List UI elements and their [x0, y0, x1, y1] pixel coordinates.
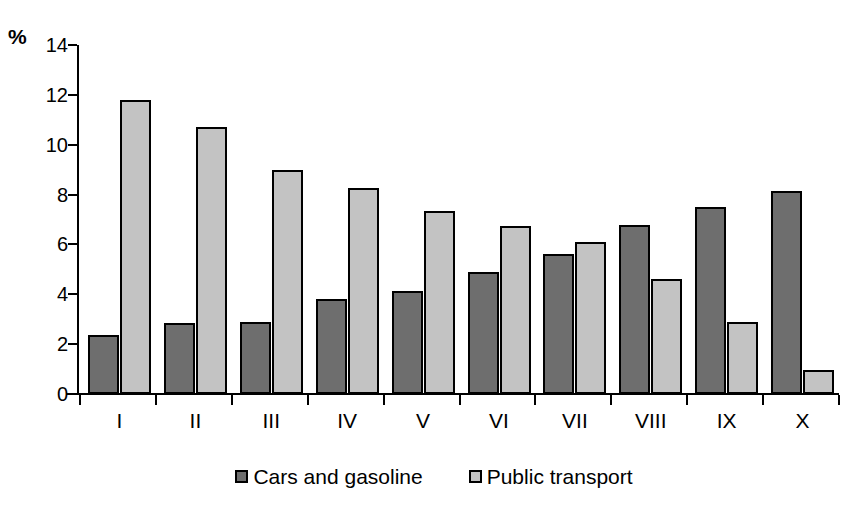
bar — [771, 191, 802, 394]
bar — [392, 291, 423, 394]
bar-group — [762, 45, 838, 394]
legend-swatch-icon — [235, 470, 248, 483]
bar — [120, 100, 151, 394]
y-axis-tick-label: 8 — [26, 185, 68, 205]
x-axis-tick-mark — [155, 395, 157, 405]
x-axis-tick-mark — [686, 395, 688, 405]
x-axis-category-label: IX — [695, 410, 758, 431]
bar — [619, 225, 650, 395]
y-axis-tick-mark — [68, 293, 77, 295]
y-axis-tick-labels: 02468101214 — [18, 45, 68, 394]
bar — [803, 370, 834, 394]
x-axis-tick-mark — [838, 395, 840, 405]
x-axis-category-label: III — [240, 410, 303, 431]
y-axis-unit-label: % — [8, 26, 27, 47]
y-axis-tick-label: 10 — [26, 135, 68, 155]
bar — [500, 226, 531, 394]
bar-chart: % 02468101214 IIIIIIIVVVIVIIVIIIIXX Cars… — [0, 0, 868, 506]
x-axis-category-label: X — [771, 410, 834, 431]
bar — [424, 211, 455, 394]
x-axis-tick-mark — [79, 395, 81, 405]
bar — [575, 242, 606, 394]
bar-group — [383, 45, 459, 394]
bar — [695, 207, 726, 394]
x-axis-tick-mark — [534, 395, 536, 405]
bar — [543, 254, 574, 394]
y-axis-tick-label: 2 — [26, 334, 68, 354]
y-axis-tick-mark — [68, 94, 77, 96]
bar-group — [459, 45, 535, 394]
bar-group — [610, 45, 686, 394]
bar — [240, 322, 271, 394]
x-axis-category-label: V — [392, 410, 455, 431]
bar — [348, 188, 379, 394]
bar — [196, 127, 227, 394]
y-axis-tick-marks — [68, 45, 77, 394]
legend-item: Public transport — [469, 466, 633, 487]
y-axis-tick-label: 4 — [26, 284, 68, 304]
x-axis-tick-mark — [383, 395, 385, 405]
y-axis-tick-mark — [68, 44, 77, 46]
bar — [727, 322, 758, 394]
legend-swatch-icon — [469, 470, 482, 483]
bar-group — [155, 45, 231, 394]
bar-group — [686, 45, 762, 394]
y-axis-tick-label: 14 — [26, 35, 68, 55]
y-axis-tick-label: 12 — [26, 85, 68, 105]
x-axis-category-label: II — [164, 410, 227, 431]
y-axis-tick-mark — [68, 194, 77, 196]
x-axis-category-label: VII — [543, 410, 606, 431]
x-axis-category-label: VI — [468, 410, 531, 431]
x-axis-tick-mark — [231, 395, 233, 405]
bars-layer — [79, 45, 838, 394]
x-axis-tick-mark — [307, 395, 309, 405]
y-axis-tick-mark — [68, 343, 77, 345]
bar-group — [534, 45, 610, 394]
x-axis-tick-mark — [610, 395, 612, 405]
bar — [272, 170, 303, 394]
legend-item: Cars and gasoline — [235, 466, 422, 487]
bar — [651, 279, 682, 394]
y-axis-tick-mark — [68, 144, 77, 146]
bar — [88, 335, 119, 394]
chart-legend: Cars and gasolinePublic transport — [0, 466, 868, 487]
x-axis-category-label: VIII — [619, 410, 682, 431]
x-axis-tick-mark — [459, 395, 461, 405]
x-axis-category-label: IV — [316, 410, 379, 431]
bar — [164, 323, 195, 394]
bar-group — [231, 45, 307, 394]
bar — [468, 272, 499, 394]
legend-label: Cars and gasoline — [253, 466, 422, 487]
x-axis-tick-mark — [762, 395, 764, 405]
bar-group — [79, 45, 155, 394]
bar-group — [307, 45, 383, 394]
x-axis-category-labels: IIIIIIIVVVIVIIVIIIIXX — [79, 410, 838, 440]
y-axis-tick-label: 6 — [26, 234, 68, 254]
bar — [316, 299, 347, 394]
y-axis-tick-mark — [68, 243, 77, 245]
legend-label: Public transport — [487, 466, 633, 487]
x-axis-category-label: I — [88, 410, 151, 431]
y-axis-tick-label: 0 — [26, 384, 68, 404]
